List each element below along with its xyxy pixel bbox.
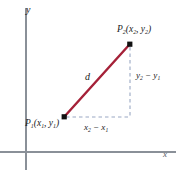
p2-comma: , y <box>136 24 145 34</box>
x-axis-label: x <box>163 150 167 159</box>
dx-sub-2: 2 <box>88 127 91 133</box>
dy-sub-1: 1 <box>157 75 160 81</box>
distance-label: d <box>85 72 90 82</box>
distance-segment <box>65 45 130 117</box>
p2-paren-close: ) <box>148 24 151 34</box>
p1-x-index: 1 <box>41 123 44 129</box>
dy-minus: − y <box>143 70 158 80</box>
point-p1-label: P1(x1, y1) <box>25 119 59 129</box>
figure-canvas <box>0 0 179 171</box>
point-p2-label: P2(x2, y2) <box>117 25 151 35</box>
p2-x-index: 2 <box>133 29 136 35</box>
p1-comma: , y <box>44 118 53 128</box>
vertical-leg-label: y2 − y1 <box>136 71 160 80</box>
distance-formula-figure: y x P2(x2, y2) P1(x1, y1) d y2 − y1 x2 −… <box>0 0 179 171</box>
y-axis-label: y <box>26 5 30 15</box>
p2-letter: P <box>117 24 123 34</box>
dx-sub-1: 1 <box>105 127 108 133</box>
dy-sub-2: 2 <box>140 75 143 81</box>
p1-index: 1 <box>31 123 34 129</box>
p2-y-index: 2 <box>145 29 148 35</box>
p1-letter: P <box>25 118 31 128</box>
p1-y-index: 1 <box>53 123 56 129</box>
p1-paren-close: ) <box>56 118 59 128</box>
horizontal-leg-label: x2 − x1 <box>84 123 108 132</box>
p2-index: 2 <box>123 29 126 35</box>
point-p2-marker <box>127 42 132 47</box>
dx-minus: − x <box>91 122 106 132</box>
point-p1-marker <box>62 114 67 119</box>
